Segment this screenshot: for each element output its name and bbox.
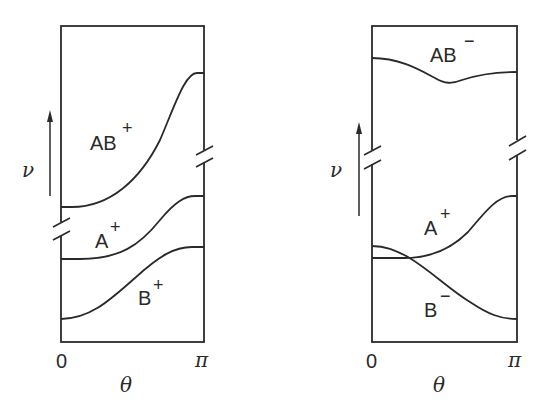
curve-b-plus <box>61 247 204 319</box>
label-a-plus-right-sign: + <box>440 204 451 224</box>
x-axis-label-right: θ <box>433 373 445 397</box>
y-axis-label: ν <box>22 158 34 182</box>
label-b-plus: B <box>138 287 151 309</box>
curve-ab-plus <box>61 73 204 207</box>
nu-arrow-icon <box>47 110 53 196</box>
label-b-minus: B <box>424 299 437 321</box>
x-tick-zero-right: 0 <box>366 350 377 372</box>
label-ab-plus: AB <box>90 132 117 154</box>
label-ab-plus-sign: + <box>122 118 133 138</box>
energy-level-diagram: ν AB + A + B + 0 π θ <box>0 0 549 408</box>
nu-arrow-icon <box>356 122 362 216</box>
right-panel: ν AB − A + B − 0 π θ <box>330 26 526 397</box>
label-a-plus-sign: + <box>110 217 121 237</box>
label-a-plus-right: A <box>424 217 438 239</box>
label-b-minus-sign: − <box>440 286 451 306</box>
x-tick-pi: π <box>194 348 209 372</box>
label-b-plus-sign: + <box>153 275 164 295</box>
label-ab-minus-sign: − <box>464 31 475 51</box>
curve-b-minus <box>372 246 517 319</box>
label-a-plus: A <box>95 230 109 252</box>
x-tick-pi-right: π <box>507 348 522 372</box>
x-tick-zero: 0 <box>56 350 67 372</box>
left-panel-frame <box>61 26 204 342</box>
y-axis-label-right: ν <box>330 158 342 182</box>
x-axis-label: θ <box>120 373 132 397</box>
label-ab-minus: AB <box>430 44 457 66</box>
left-panel: ν AB + A + B + 0 π θ <box>22 26 213 397</box>
